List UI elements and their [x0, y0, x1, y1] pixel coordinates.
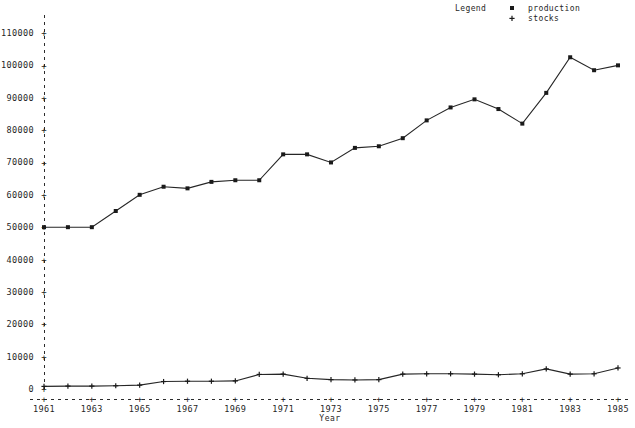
x-tick-label: 1985: [607, 404, 629, 414]
y-axis-tick-10000: +: [41, 352, 47, 362]
y-tick-label: 80000: [6, 125, 34, 135]
data-point-production-1985: [616, 63, 620, 67]
y-axis-tick-labels: 0100002000030000400005000060000700008000…: [1, 28, 34, 394]
data-point-production-1963: [90, 225, 94, 229]
x-tick-label: 1981: [511, 404, 533, 414]
data-point-production-1983: [568, 55, 572, 59]
data-point-production-1972: [305, 152, 309, 156]
data-point-production-1973: [329, 160, 333, 164]
data-point-stocks-1976: [400, 372, 405, 377]
data-point-stocks-1972: [304, 376, 309, 381]
series-line-production: [44, 57, 618, 227]
data-point-production-1962: [66, 225, 70, 229]
data-point-production-1974: [353, 146, 357, 150]
x-tick-label: 1967: [176, 404, 198, 414]
legend-label-stocks: stocks: [528, 14, 559, 23]
series-stocks: [41, 365, 620, 389]
data-point-stocks-1969: [233, 378, 238, 383]
data-point-production-1984: [592, 68, 596, 72]
data-point-stocks-1980: [496, 372, 501, 377]
data-point-stocks-1978: [448, 371, 453, 376]
data-series-group: [41, 55, 620, 389]
x-axis-tick-1963: +: [89, 394, 95, 404]
data-point-production-1968: [209, 180, 213, 184]
y-tick-label: 0: [28, 384, 34, 394]
data-point-production-1981: [520, 122, 524, 126]
legend-label-production: production: [528, 4, 580, 13]
legend-marker-production: [510, 6, 514, 10]
x-axis-tick-1973: +: [328, 394, 334, 404]
y-axis-tick-40000: +: [41, 255, 47, 265]
data-point-stocks-1971: [281, 372, 286, 377]
data-point-stocks-1979: [472, 372, 477, 377]
data-point-production-1966: [162, 185, 166, 189]
x-axis-tick-1969: +: [233, 394, 239, 404]
x-axis-tick-1975: +: [376, 394, 382, 404]
data-point-stocks-1968: [209, 379, 214, 384]
y-tick-label: 10000: [6, 352, 34, 362]
x-axis-tick-1967: +: [185, 394, 191, 404]
data-point-stocks-1970: [257, 372, 262, 377]
data-point-stocks-1982: [544, 366, 549, 371]
data-point-stocks-1964: [113, 383, 118, 388]
y-tick-label: 90000: [6, 93, 34, 103]
data-point-production-1980: [496, 107, 500, 111]
x-tick-label: 1965: [129, 404, 151, 414]
chart-legend: Legendproductionstocks: [455, 4, 580, 23]
line-chart: ++++++++++++ 010000200003000040000500006…: [0, 0, 635, 428]
y-tick-label: 50000: [6, 222, 34, 232]
data-point-stocks-1981: [520, 371, 525, 376]
data-point-production-1975: [377, 144, 381, 148]
x-tick-label: 1977: [416, 404, 438, 414]
data-point-stocks-1985: [615, 365, 620, 370]
data-point-stocks-1966: [161, 379, 166, 384]
data-point-production-1969: [233, 178, 237, 182]
data-point-production-1970: [257, 178, 261, 182]
x-tick-label: 1979: [463, 404, 485, 414]
series-production: [42, 55, 620, 229]
x-axis-title: Year: [319, 414, 340, 423]
data-point-stocks-1973: [328, 377, 333, 382]
data-point-production-1965: [138, 193, 142, 197]
data-point-stocks-1984: [591, 371, 596, 376]
data-point-production-1977: [425, 118, 429, 122]
x-tick-label: 1963: [81, 404, 103, 414]
y-axis-tick-60000: +: [41, 190, 47, 200]
y-axis-tick-70000: +: [41, 158, 47, 168]
x-tick-label: 1983: [559, 404, 581, 414]
data-point-production-1976: [401, 136, 405, 140]
data-point-stocks-1977: [424, 371, 429, 376]
x-axis-tick-1985: +: [615, 394, 621, 404]
y-tick-label: 60000: [6, 190, 34, 200]
data-point-production-1982: [544, 91, 548, 95]
data-point-production-1979: [473, 97, 477, 101]
y-axis-tick-30000: +: [41, 287, 47, 297]
x-axis-tick-1965: +: [137, 394, 143, 404]
y-tick-label: 30000: [6, 287, 34, 297]
data-point-production-1971: [281, 152, 285, 156]
x-axis-tick-1981: +: [520, 394, 526, 404]
data-point-stocks-1983: [568, 372, 573, 377]
data-point-stocks-1965: [137, 383, 142, 388]
legend-marker-stocks: [509, 16, 514, 21]
data-point-stocks-1962: [65, 383, 70, 388]
data-point-stocks-1974: [352, 377, 357, 382]
data-point-stocks-1963: [89, 383, 94, 388]
legend-title: Legend: [455, 4, 486, 13]
y-axis-tick-90000: +: [41, 93, 47, 103]
data-point-stocks-1967: [185, 379, 190, 384]
x-axis-tick-1983: +: [567, 394, 573, 404]
x-tick-label: 1961: [33, 404, 55, 414]
x-axis-tick-1971: +: [280, 394, 286, 404]
x-axis-tick-1979: +: [472, 394, 478, 404]
y-tick-label: 20000: [6, 319, 34, 329]
y-tick-label: 70000: [6, 157, 34, 167]
data-point-production-1961: [42, 225, 46, 229]
data-point-production-1967: [186, 186, 190, 190]
data-point-production-1964: [114, 209, 118, 213]
y-axis-tick-80000: +: [41, 125, 47, 135]
x-tick-label: 1971: [272, 404, 294, 414]
x-axis: +++++++++++++: [30, 394, 632, 404]
y-tick-label: 100000: [1, 60, 34, 70]
x-tick-label: 1973: [320, 404, 342, 414]
